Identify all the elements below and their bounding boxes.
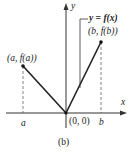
point-a-label: (a, f(a)) — [7, 54, 37, 64]
origin-label: (0, 0) — [69, 117, 90, 127]
tick-b-label: b — [99, 118, 104, 128]
point-a — [21, 64, 25, 68]
point-b — [99, 40, 103, 44]
y-axis-label: y — [71, 2, 75, 12]
x-axis-label: x — [121, 98, 125, 108]
y-axis-arrow-icon — [64, 3, 69, 10]
function-left-segment — [23, 66, 66, 113]
function-right-segment — [66, 42, 101, 113]
function-label: y = f(x) — [89, 14, 118, 24]
point-b-label: (b, f(b)) — [88, 27, 118, 37]
figure-caption: (b) — [58, 138, 69, 148]
origin-point — [64, 111, 67, 114]
tick-a-label: a — [21, 119, 26, 129]
figure: y x y = f(x) (b, f(b)) (a, f(a)) a b (0,… — [0, 0, 131, 153]
x-axis-arrow-icon — [120, 111, 127, 116]
